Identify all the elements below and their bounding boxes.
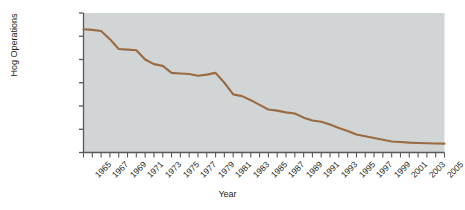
plot-background: [84, 13, 445, 152]
y-tick-marks: [79, 13, 84, 153]
x-tick-marks: [84, 153, 445, 158]
